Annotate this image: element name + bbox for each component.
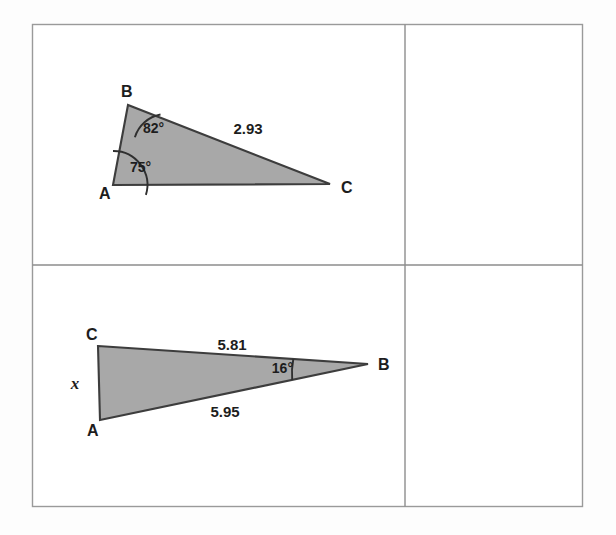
angle-label-b-16: 16°: [272, 360, 293, 376]
side-label-ca-x: x: [70, 374, 80, 393]
worksheet-canvas: A B C 75° 82° 2.93 C A B 16° 5.81 5.95 x: [0, 0, 616, 535]
vertex-label-c2: C: [86, 326, 98, 343]
vertex-label-c: C: [341, 179, 353, 196]
vertex-label-a: A: [99, 185, 111, 202]
diagram-svg: A B C 75° 82° 2.93 C A B 16° 5.81 5.95 x: [0, 0, 616, 535]
angle-label-a-75: 75°: [130, 159, 151, 175]
vertex-label-b: B: [121, 83, 133, 100]
vertex-label-b2: B: [378, 356, 390, 373]
side-label-bc-293: 2.93: [233, 120, 262, 137]
side-label-cb-581: 5.81: [217, 336, 246, 353]
angle-label-b-82: 82°: [143, 120, 164, 136]
vertex-label-a2: A: [87, 422, 99, 439]
side-label-ab-595: 5.95: [210, 403, 239, 420]
